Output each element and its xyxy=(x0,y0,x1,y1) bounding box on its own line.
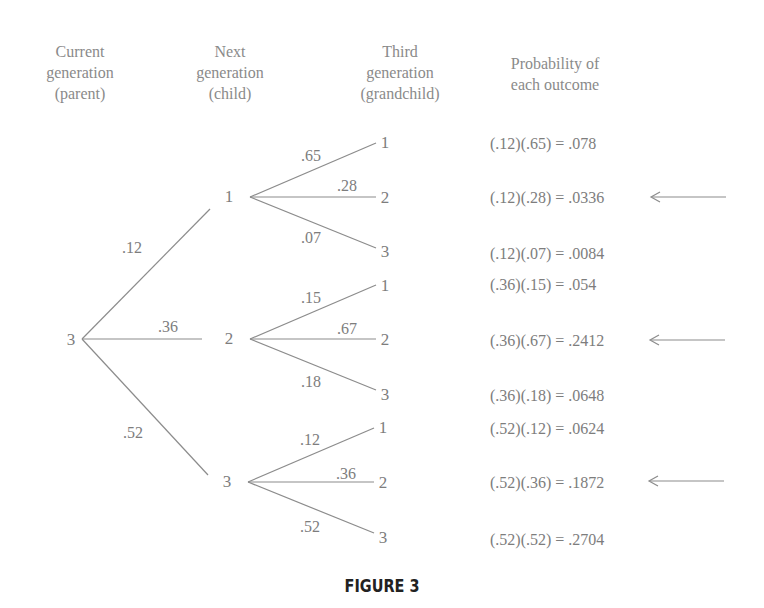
figure-caption: FIGURE 3 xyxy=(57,576,706,596)
outcome-2-3: (.36)(.18) = .0648 xyxy=(490,387,604,405)
arrow-icon xyxy=(649,476,724,486)
prob-3-to-1: .12 xyxy=(300,432,320,448)
node-grandchild-2-2: 2 xyxy=(381,331,390,349)
prob-2-to-2: .67 xyxy=(337,321,357,337)
node-child-3: 3 xyxy=(223,473,232,491)
node-grandchild-2-1: 1 xyxy=(381,277,390,295)
node-grandchild-3-1: 1 xyxy=(379,419,388,437)
prob-1-to-1: .65 xyxy=(301,148,321,164)
outcome-1-2: (.12)(.28) = .0336 xyxy=(490,189,604,207)
node-root: 3 xyxy=(67,331,76,349)
node-grandchild-3-2: 2 xyxy=(379,474,388,492)
prob-root-to-3: .52 xyxy=(123,425,143,441)
prob-1-to-3: .07 xyxy=(301,230,321,246)
outcome-2-1: (.36)(.15) = .054 xyxy=(490,276,596,294)
node-child-2: 2 xyxy=(225,330,234,348)
outcome-3-3: (.52)(.52) = .2704 xyxy=(490,531,604,549)
tree-branches xyxy=(0,0,764,608)
arrow-icon xyxy=(651,192,726,202)
prob-3-to-3: .52 xyxy=(300,519,320,535)
node-grandchild-1-1: 1 xyxy=(381,134,390,152)
branch-root-to-3 xyxy=(82,339,208,475)
prob-root-to-1: .12 xyxy=(122,240,142,256)
arrow-icon xyxy=(650,335,725,345)
node-grandchild-3-3: 3 xyxy=(379,529,388,547)
outcome-2-2: (.36)(.67) = .2412 xyxy=(490,332,604,350)
node-grandchild-1-3: 3 xyxy=(381,243,390,261)
branch-root-to-1 xyxy=(82,209,210,339)
prob-2-to-3: .18 xyxy=(301,374,321,390)
outcome-3-1: (.52)(.12) = .0624 xyxy=(490,420,604,438)
node-grandchild-2-3: 3 xyxy=(381,386,390,404)
prob-3-to-2: .36 xyxy=(336,466,356,482)
node-grandchild-1-2: 2 xyxy=(381,189,390,207)
outcome-1-3: (.12)(.07) = .0084 xyxy=(490,245,604,263)
prob-1-to-2: .28 xyxy=(337,178,357,194)
prob-2-to-1: .15 xyxy=(301,290,321,306)
outcome-1-1: (.12)(.65) = .078 xyxy=(490,135,596,153)
outcome-3-2: (.52)(.36) = .1872 xyxy=(490,474,604,492)
prob-root-to-2: .36 xyxy=(158,319,178,335)
node-child-1: 1 xyxy=(225,188,234,206)
